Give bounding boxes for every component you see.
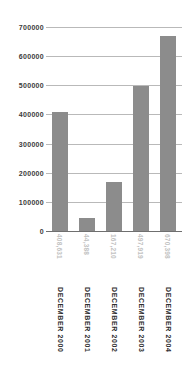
y-tick-label: 0 bbox=[0, 228, 44, 235]
y-tick-label: 100000 bbox=[0, 198, 44, 205]
category-label: DECEMBER 2003 bbox=[138, 287, 145, 352]
category-label: DECEMBER 2001 bbox=[84, 287, 91, 352]
y-tick-label: 500000 bbox=[0, 82, 44, 89]
y-axis: 7000006000005000004000003000002000001000… bbox=[0, 0, 44, 368]
category-label: DECEMBER 2002 bbox=[111, 287, 118, 352]
y-tick-label: 400000 bbox=[0, 111, 44, 118]
category-label: DECEMBER 2000 bbox=[57, 287, 64, 352]
category-axis-labels: DECEMBER 2000DECEMBER 2001DECEMBER 2002D… bbox=[46, 0, 182, 368]
y-tick-label: 600000 bbox=[0, 53, 44, 60]
y-tick-label: 200000 bbox=[0, 169, 44, 176]
bar-chart: 7000006000005000004000003000002000001000… bbox=[0, 0, 188, 368]
y-tick-label: 300000 bbox=[0, 140, 44, 147]
y-tick-label: 700000 bbox=[0, 24, 44, 31]
x-axis-line bbox=[46, 231, 182, 232]
category-label: DECEMBER 2004 bbox=[165, 287, 172, 352]
